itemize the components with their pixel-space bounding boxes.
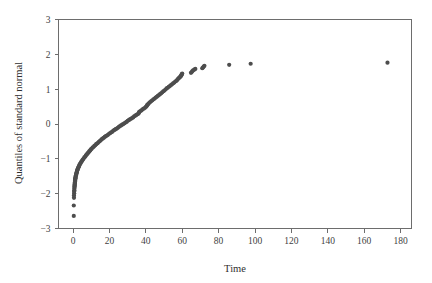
data-point bbox=[72, 214, 76, 218]
y-tick-label: −3 bbox=[40, 224, 50, 234]
y-tick-label: −1 bbox=[40, 154, 50, 164]
y-tick-label: 0 bbox=[46, 119, 51, 129]
data-point bbox=[249, 62, 253, 66]
x-tick-label: 120 bbox=[284, 236, 299, 246]
chart-page: 020406080100120140160180 −3−2−10123 Time… bbox=[0, 0, 432, 283]
x-axis-title: Time bbox=[224, 263, 246, 274]
x-tick-label: 60 bbox=[177, 236, 187, 246]
data-point bbox=[227, 63, 231, 67]
qq-plot-figure: 020406080100120140160180 −3−2−10123 Time… bbox=[0, 0, 432, 283]
x-tick-label: 0 bbox=[71, 236, 76, 246]
x-tick-label: 160 bbox=[357, 236, 372, 246]
y-tick-label: 1 bbox=[46, 85, 51, 95]
x-tick-label: 100 bbox=[248, 236, 263, 246]
data-point bbox=[193, 67, 197, 71]
data-point bbox=[72, 203, 76, 207]
x-tick-label: 140 bbox=[321, 236, 336, 246]
x-tick-label: 180 bbox=[393, 236, 408, 246]
scatter-plot-svg: 020406080100120140160180 −3−2−10123 Time… bbox=[0, 0, 432, 283]
x-tick-label: 20 bbox=[105, 236, 115, 246]
data-point bbox=[202, 64, 206, 68]
data-point bbox=[385, 61, 389, 65]
y-axis-title: Quantiles of standard normal bbox=[13, 62, 24, 184]
y-tick-label: −2 bbox=[40, 189, 50, 199]
data-point bbox=[180, 71, 184, 75]
x-tick-label: 80 bbox=[214, 236, 224, 246]
y-tick-label: 3 bbox=[46, 15, 51, 25]
y-tick-label: 2 bbox=[46, 50, 51, 60]
x-tick-label: 40 bbox=[141, 236, 151, 246]
